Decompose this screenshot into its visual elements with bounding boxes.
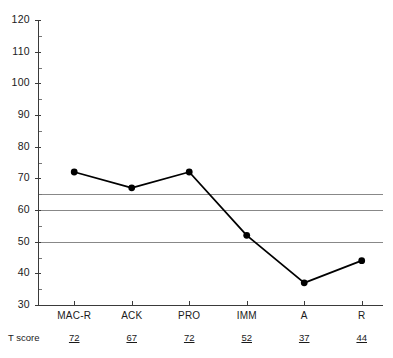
t-score-row-caption: T score: [8, 332, 40, 344]
x-axis-ticks: [75, 301, 363, 305]
data-point-a[interactable]: [301, 279, 308, 286]
y-axis-label-50: 50: [2, 236, 30, 247]
plot-area: [0, 0, 393, 358]
data-point-pro[interactable]: [186, 169, 193, 176]
t-score-value-a: 37: [275, 332, 333, 344]
y-axis-label-90: 90: [2, 109, 30, 120]
t-score-value-pro: 72: [160, 332, 218, 344]
y-axis-label-40: 40: [2, 267, 30, 278]
x-axis-label-mac-r: MAC-R: [45, 310, 103, 322]
reference-lines: [38, 195, 383, 243]
t-score-value-mac-r: 72: [45, 332, 103, 344]
data-line: [74, 172, 362, 283]
x-axis-label-ack: ACK: [103, 310, 161, 322]
x-axis-label-r: R: [333, 310, 391, 322]
data-point-imm[interactable]: [243, 232, 250, 239]
y-axis-label-60: 60: [2, 204, 30, 215]
y-axis-label-120: 120: [2, 14, 30, 25]
x-axis-label-pro: PRO: [160, 310, 218, 322]
data-point-mac-r[interactable]: [71, 169, 78, 176]
y-axis-label-30: 30: [2, 299, 30, 310]
y-axis-label-70: 70: [2, 172, 30, 183]
t-score-value-ack: 67: [103, 332, 161, 344]
y-axis-label-100: 100: [2, 77, 30, 88]
x-axis-label-imm: IMM: [218, 310, 276, 322]
y-axis-label-80: 80: [2, 141, 30, 152]
x-axis-label-a: A: [275, 310, 333, 322]
t-score-value-imm: 52: [218, 332, 276, 344]
scale-profile-chart: 30405060708090100110120 MAC-RACKPROIMMAR…: [0, 0, 393, 358]
data-point-ack[interactable]: [128, 184, 135, 191]
data-point-r[interactable]: [358, 257, 365, 264]
y-axis-label-110: 110: [2, 46, 30, 57]
t-score-value-r: 44: [333, 332, 391, 344]
data-markers: [71, 169, 365, 287]
